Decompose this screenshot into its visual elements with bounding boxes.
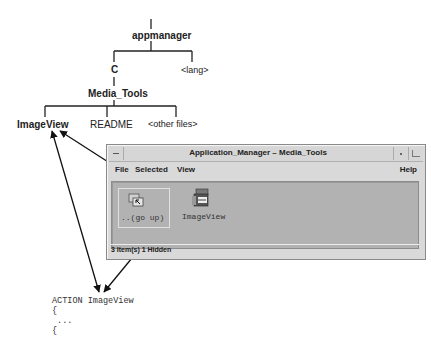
menu-file[interactable]: File bbox=[115, 165, 129, 174]
file-view-area: ..(go up) ImageView bbox=[111, 181, 419, 249]
menu-selected[interactable]: Selected bbox=[135, 165, 168, 174]
tree-node-other-files: <other files> bbox=[148, 119, 198, 129]
tree-node-c: C bbox=[111, 64, 118, 75]
imageview-action-item[interactable]: ImageView bbox=[182, 188, 242, 226]
menu-help[interactable]: Help bbox=[400, 165, 417, 174]
code-line: ACTION ImageView bbox=[52, 296, 134, 306]
menu-bar: File Selected View Help bbox=[109, 163, 423, 177]
folder-up-icon bbox=[128, 193, 144, 207]
menu-view[interactable]: View bbox=[177, 165, 195, 174]
go-up-item[interactable]: ..(go up) bbox=[118, 188, 170, 228]
tree-node-readme: README bbox=[90, 119, 133, 130]
tree-node-lang: <lang> bbox=[181, 65, 209, 75]
action-icon bbox=[192, 188, 210, 208]
tree-node-media-tools: Media_Tools bbox=[88, 88, 148, 99]
title-bar: Application_Manager – Media_Tools bbox=[109, 147, 423, 162]
minimize-button[interactable] bbox=[393, 147, 408, 160]
window-menu-button[interactable] bbox=[109, 147, 124, 160]
code-line: { bbox=[52, 306, 134, 316]
tree-node-appmanager: appmanager bbox=[132, 30, 191, 41]
application-manager-window: Application_Manager – Media_Tools File S… bbox=[106, 144, 426, 260]
window-title: Application_Manager – Media_Tools bbox=[125, 148, 391, 157]
tree-node-imageview: ImageView bbox=[17, 119, 69, 130]
maximize-button[interactable] bbox=[408, 147, 423, 160]
code-line: ... bbox=[52, 316, 134, 326]
action-definition: ACTION ImageView{ ...{ bbox=[52, 296, 134, 336]
code-line: { bbox=[52, 326, 134, 336]
status-bar: 3 Item(s) 1 Hidden bbox=[111, 244, 419, 256]
